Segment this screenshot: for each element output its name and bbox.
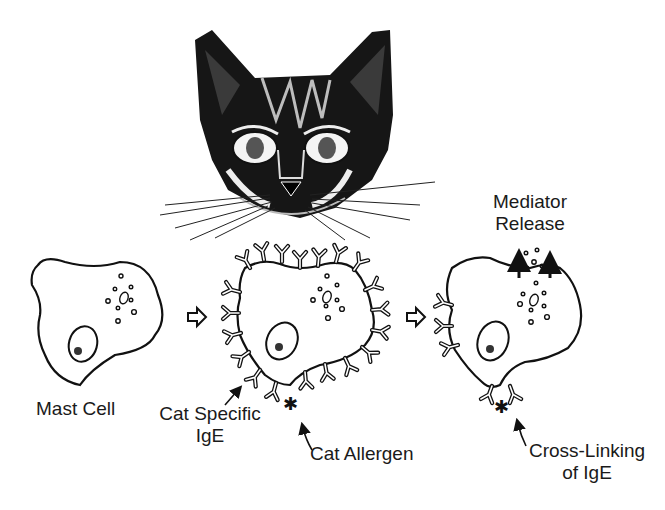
cross-linked-allergen-star: ✱ — [494, 397, 509, 417]
flow-arrow-1 — [188, 308, 206, 326]
mediator-release-line2: Release — [480, 213, 580, 235]
mediator-release-label: Mediator Release — [480, 191, 580, 235]
cross-linking-label: Cross-Linking of IgE — [522, 440, 652, 484]
allergy-diagram: ✱ — [0, 0, 665, 510]
ige-antibodies — [223, 243, 389, 400]
diagram-art: ✱ — [0, 0, 665, 510]
mediator-release-arrows — [519, 260, 550, 278]
cross-linking-line1: Cross-Linking — [522, 440, 652, 462]
activated-mast-cell: ✱ — [435, 248, 581, 417]
flow-arrow-2 — [407, 308, 425, 326]
mast-cell — [32, 259, 163, 385]
granules — [106, 274, 137, 323]
cat-specific-ige-line2: IgE — [150, 425, 270, 447]
allergen-star: ✱ — [283, 394, 298, 414]
cat-allergen-label: Cat Allergen — [310, 443, 414, 465]
sensitized-mast-cell: ✱ — [223, 243, 389, 414]
mast-cell-label: Mast Cell — [36, 398, 115, 420]
cat-head-illustration — [160, 30, 435, 240]
mediator-release-line1: Mediator — [480, 191, 580, 213]
cross-linking-line2: of IgE — [522, 462, 652, 484]
cat-specific-ige-line1: Cat Specific — [150, 403, 270, 425]
cat-specific-ige-label: Cat Specific IgE — [150, 403, 270, 447]
